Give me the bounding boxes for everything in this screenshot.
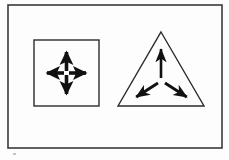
scan-speck [13, 153, 16, 155]
figure-root: Outward-pointing arrows on a square and … [0, 0, 229, 160]
figure-canvas [0, 0, 229, 160]
